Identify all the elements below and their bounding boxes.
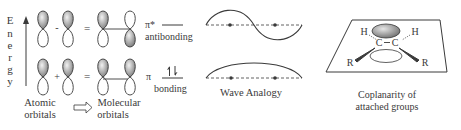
atomic-caption-line2: orbitals: [24, 109, 56, 120]
pi-symbol: π: [146, 71, 151, 82]
p-orbital-icon: [125, 59, 136, 95]
r-group-right: R: [422, 57, 429, 68]
nucleus-dot: [273, 76, 277, 80]
energy-letter-g: g: [7, 63, 13, 75]
p-orbital-icon: [38, 11, 49, 47]
arrow-up-icon: [23, 16, 29, 24]
antibonding-level: π* antibonding: [145, 19, 193, 42]
equals-sign: =: [84, 22, 90, 34]
energy-axis: E n e r g y: [7, 14, 29, 87]
electron-pair-icon: [167, 66, 178, 76]
atomic-caption-line1: Atomic: [24, 97, 56, 108]
equals-sign: =: [84, 70, 90, 82]
bonding-label: bonding: [154, 83, 187, 94]
p-orbital-icon: [98, 59, 109, 95]
energy-letter-y: y: [7, 75, 13, 87]
bonding-combination: + =: [38, 59, 136, 95]
energy-letter-e: E: [7, 14, 14, 26]
pi-star-symbol: π*: [145, 19, 155, 30]
plus-sign: +: [54, 71, 60, 82]
energy-letter-r: r: [8, 51, 12, 63]
antibonding-label: antibonding: [145, 31, 193, 42]
arrow-right-icon: [74, 102, 92, 113]
molecular-caption-line1: Molecular: [97, 97, 141, 108]
wave-analogy-caption: Wave Analogy: [220, 87, 283, 98]
minus-sign: -: [55, 22, 58, 33]
antibonding-wave: [206, 10, 302, 39]
energy-letter-n: n: [7, 27, 13, 39]
bonding-level: π bonding: [146, 66, 187, 94]
bonding-wave: [206, 63, 302, 80]
carbon-right: C: [392, 37, 399, 48]
p-orbital-icon: [63, 11, 74, 47]
nucleus-dot: [228, 23, 232, 27]
r-group-left: R: [347, 57, 354, 68]
pi-bond-diagram: E n e r g y - = + =: [0, 0, 461, 130]
coplanarity-caption-line2: attached groups: [355, 101, 418, 112]
nucleus-dot: [229, 76, 233, 80]
p-orbital-icon: [38, 59, 49, 95]
molecular-caption-line2: orbitals: [97, 109, 129, 120]
coplanarity-caption-line1: Coplanarity of: [358, 89, 417, 100]
upper-pi-lobe: [372, 24, 400, 38]
h-right: H: [411, 26, 418, 37]
lower-pi-lobe: [370, 50, 402, 63]
h-left: H: [360, 26, 367, 37]
p-orbital-icon: [63, 59, 74, 95]
antibonding-combination: - =: [38, 11, 136, 47]
arch-wave: [206, 63, 302, 78]
carbon-left: C: [376, 37, 383, 48]
energy-letter-e2: e: [8, 39, 13, 51]
coplanarity-illustration: H H C C R R: [326, 20, 447, 72]
nucleus-dot: [273, 23, 277, 27]
